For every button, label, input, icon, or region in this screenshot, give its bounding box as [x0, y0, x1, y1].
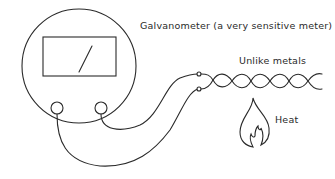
thermocouple-diagram: Galvanometer (a very sensitive meter) Un… [0, 0, 335, 179]
galvanometer-body [22, 9, 136, 123]
terminal-left [51, 102, 63, 114]
wire-upper [101, 74, 198, 129]
junction-bottom [197, 87, 201, 91]
metal-wire-b [213, 74, 322, 88]
meter-needle-icon [79, 46, 92, 72]
metal-wire-a [213, 74, 322, 89]
heat-label: Heat [275, 114, 298, 125]
junction-top [197, 72, 201, 76]
lead-bottom [201, 80, 213, 89]
wire-lower [57, 89, 198, 166]
unlike-metals-label: Unlike metals [239, 55, 306, 66]
flame-icon [240, 98, 269, 147]
terminal-right [95, 102, 107, 114]
lead-top [201, 74, 213, 80]
galvanometer-label: Galvanometer (a very sensitive meter) [140, 20, 332, 31]
